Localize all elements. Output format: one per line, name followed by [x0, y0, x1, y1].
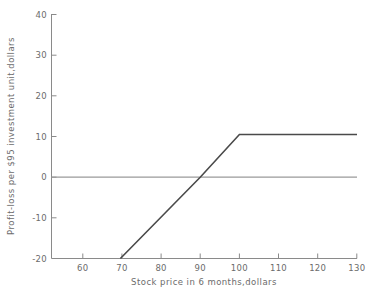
y-tick-label-30: 30 [36, 50, 47, 60]
x-tick-label-80: 80 [155, 263, 166, 273]
y-tick-label-minus10: -10 [32, 213, 47, 223]
x-tick-label-120: 120 [309, 263, 326, 273]
x-axis-title: Stock price in 6 months,dollars [131, 277, 277, 287]
line-chart: 40 30 20 10 0 -10 -20 60 70 80 90 100 11… [0, 0, 374, 294]
x-tick-label-100: 100 [231, 263, 248, 273]
chart-background [0, 0, 374, 294]
x-tick-label-130: 130 [348, 263, 365, 273]
y-tick-label-40: 40 [36, 10, 47, 20]
x-tick-label-60: 60 [77, 263, 88, 273]
y-tick-label-20: 20 [36, 91, 47, 101]
x-tick-label-90: 90 [194, 263, 205, 273]
y-tick-label-10: 10 [36, 132, 47, 142]
y-tick-label-minus20: -20 [32, 254, 47, 264]
chart-figure: 40 30 20 10 0 -10 -20 60 70 80 90 100 11… [0, 0, 374, 294]
x-tick-label-70: 70 [116, 263, 127, 273]
y-axis-title: Profit-loss per $95 investment unit,doll… [6, 37, 16, 235]
y-tick-label-0: 0 [41, 172, 47, 182]
x-tick-label-110: 110 [270, 263, 287, 273]
